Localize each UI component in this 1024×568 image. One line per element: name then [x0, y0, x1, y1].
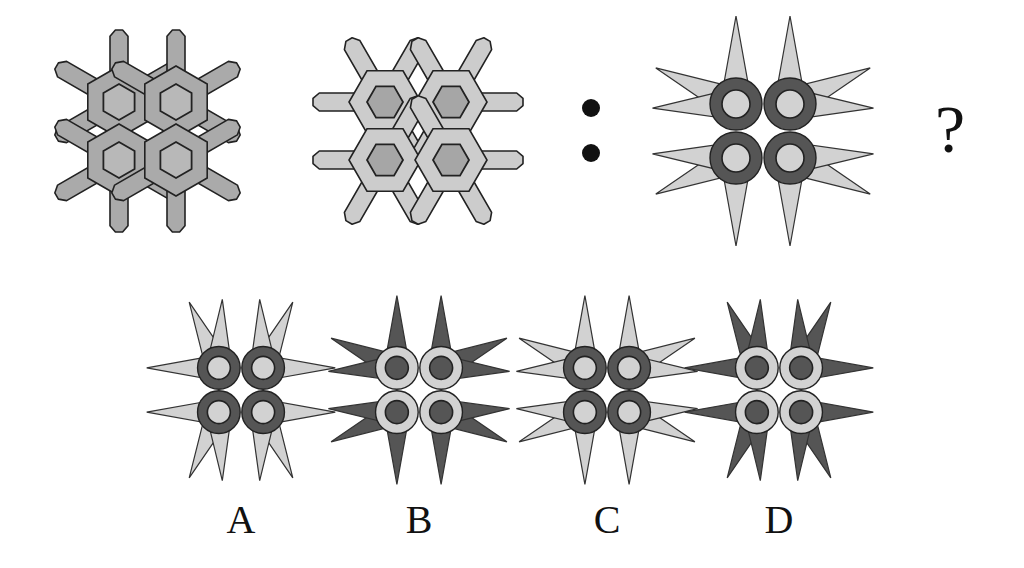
- figure-2-horizontal-hex-snowflakes: [313, 38, 523, 224]
- ratio-separator-colon: [582, 99, 600, 162]
- ring-center: [573, 401, 596, 424]
- hexagon-center: [367, 86, 403, 117]
- ring-center: [430, 356, 453, 379]
- option-c-figure[interactable]: [516, 296, 697, 485]
- option-a-figure[interactable]: [147, 299, 336, 480]
- option-d-figure[interactable]: [685, 299, 874, 480]
- ring-center: [745, 356, 768, 379]
- ring-center: [385, 356, 408, 379]
- hexagon-center: [433, 86, 469, 117]
- ring-center: [207, 356, 230, 379]
- ring-center: [790, 401, 813, 424]
- ring-center: [618, 356, 641, 379]
- hexagon-center: [160, 84, 191, 120]
- option-c-label[interactable]: C: [577, 496, 637, 543]
- colon-dot-bottom: [582, 144, 600, 162]
- ring-center: [618, 401, 641, 424]
- ring-center: [430, 401, 453, 424]
- ring-center: [252, 356, 275, 379]
- ring-center: [776, 90, 804, 118]
- ring-center: [573, 356, 596, 379]
- option-a-label[interactable]: A: [211, 496, 271, 543]
- question-mark: ?: [935, 91, 965, 167]
- ring-center: [722, 144, 750, 172]
- option-b-figure[interactable]: [328, 296, 509, 485]
- hexagon-center: [103, 142, 134, 178]
- hexagon-center: [367, 144, 403, 175]
- option-d-label[interactable]: D: [749, 496, 809, 543]
- ring-center: [776, 144, 804, 172]
- figure-1-vertical-hex-snowflakes: [55, 30, 240, 232]
- ring-center: [252, 401, 275, 424]
- option-b-label[interactable]: B: [389, 496, 449, 543]
- hexagon-center: [103, 84, 134, 120]
- figure-3-ring-star: [653, 16, 874, 246]
- puzzle-canvas: ?: [0, 0, 1024, 568]
- ring-center: [745, 401, 768, 424]
- ring-center: [207, 401, 230, 424]
- hexagon-center: [433, 144, 469, 175]
- ring-center: [385, 401, 408, 424]
- ring-center: [722, 90, 750, 118]
- colon-dot-top: [582, 99, 600, 117]
- ring-center: [790, 356, 813, 379]
- hexagon-center: [160, 142, 191, 178]
